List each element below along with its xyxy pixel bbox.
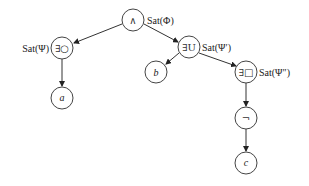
node-c-symbol: c xyxy=(244,157,249,168)
node-exists-until-symbol: ∃U xyxy=(182,42,196,53)
annotation-exists-until: Sat(Ψ′) xyxy=(202,42,231,54)
edge-root-exists-next xyxy=(74,24,122,43)
node-root-symbol: ∧ xyxy=(129,15,136,26)
node-not-symbol: ¬ xyxy=(242,112,250,123)
tree-svg: ∧ ∃○ a ∃U b ∃□ ¬ c Sat(Φ) Sat(Ψ) Sat(Ψ′)… xyxy=(0,0,309,186)
annotation-exists-always: Sat(Ψ″) xyxy=(259,67,290,79)
node-exists-always-symbol: ∃□ xyxy=(239,67,254,78)
node-b-symbol: b xyxy=(154,67,159,78)
syntax-tree-diagram: ∧ ∃○ a ∃U b ∃□ ¬ c Sat(Φ) Sat(Ψ) Sat(Ψ′)… xyxy=(0,0,309,186)
node-a-symbol: a xyxy=(60,92,65,103)
edge-root-exists-until xyxy=(144,24,178,42)
annotation-exists-next: Sat(Ψ) xyxy=(22,43,49,55)
annotation-root: Sat(Φ) xyxy=(147,15,174,27)
edge-exists-until-b xyxy=(166,53,179,64)
node-exists-next-symbol: ∃○ xyxy=(55,43,69,54)
edge-exists-until-exists-always xyxy=(199,53,236,66)
